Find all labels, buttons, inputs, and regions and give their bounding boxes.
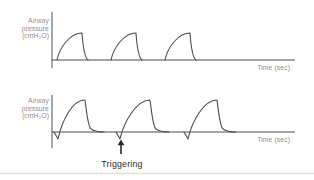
y-axis-label-line-3: (cmH₂O): [22, 112, 49, 120]
trigger-label: Triggering: [101, 159, 142, 169]
waveform-svg: Airway pressure (cmH₂O) Time (sec) Airwa…: [0, 0, 314, 180]
pressure-wave-2: [111, 33, 142, 60]
panel-triggered-breaths: Airway pressure (cmH₂O) Time (sec) Trigg…: [22, 95, 295, 169]
panel-machine-breaths: Airway pressure (cmH₂O) Time (sec): [22, 12, 295, 72]
triggered-wave-2: [116, 100, 169, 139]
triggered-wave-1: [54, 100, 104, 139]
y-axis-label-line-3: (cmH₂O): [22, 32, 49, 40]
pressure-wave-3: [165, 33, 196, 60]
figure-ventilator-waveforms: Airway pressure (cmH₂O) Time (sec) Airwa…: [0, 0, 314, 180]
triggered-wave-3: [184, 100, 236, 139]
x-axis-label: Time (sec): [257, 136, 290, 144]
trigger-arrow-head-icon: [118, 140, 125, 146]
top-axes: [52, 12, 295, 68]
x-axis-label: Time (sec): [257, 64, 290, 72]
pressure-wave-1: [57, 33, 88, 60]
